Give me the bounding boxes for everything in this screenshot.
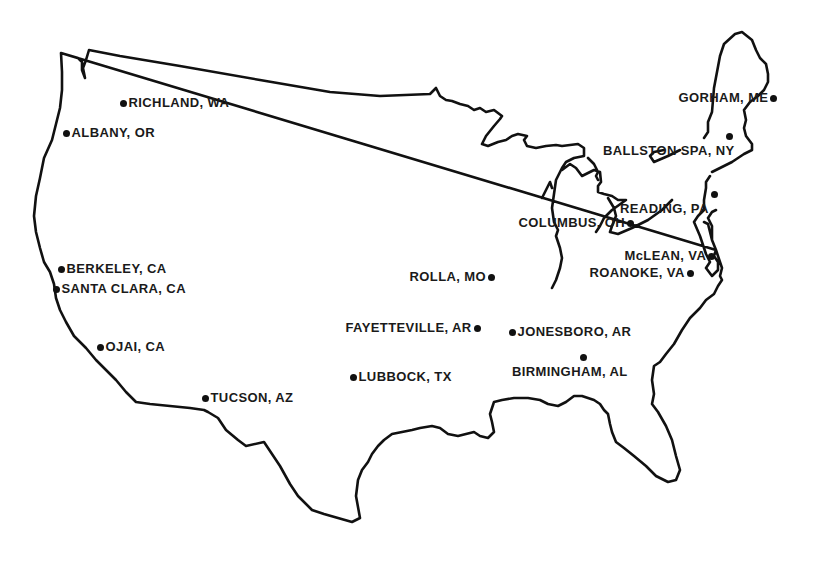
city-marker-columbus-oh: COLUMBUS, OH xyxy=(519,215,635,231)
city-label: TUCSON, AZ xyxy=(211,390,294,406)
location-dot-icon xyxy=(509,329,516,336)
location-dot-icon xyxy=(474,325,481,332)
location-dot-icon xyxy=(687,270,694,277)
city-marker-richland-wa: RICHLAND, WA xyxy=(120,95,230,111)
city-label: OJAI, CA xyxy=(106,339,166,355)
location-dot-icon xyxy=(97,344,104,351)
city-marker-rolla-mo: ROLLA, MO xyxy=(410,269,496,285)
city-label: GORHAM, ME xyxy=(679,90,769,106)
location-dot-icon xyxy=(711,191,718,198)
city-marker-fayetteville-ar: FAYETTEVILLE, AR xyxy=(346,320,481,336)
city-label: ROLLA, MO xyxy=(410,269,487,285)
city-marker-albany-or: ALBANY, OR xyxy=(63,125,155,141)
city-marker-mclean-va: McLEAN, VA xyxy=(625,248,716,264)
city-label-ballston-spa-ny: BALLSTON SPA, NY xyxy=(603,143,735,159)
city-marker-berkeley-ca: BERKELEY, CA xyxy=(58,261,167,277)
city-label: ALBANY, OR xyxy=(72,125,155,141)
city-label: ROANOKE, VA xyxy=(590,265,685,281)
location-dot-icon xyxy=(58,266,65,273)
city-label: BERKELEY, CA xyxy=(67,261,167,277)
location-dot-icon xyxy=(770,95,777,102)
city-marker-santa-clara-ca: SANTA CLARA, CA xyxy=(53,281,186,297)
location-dot-icon xyxy=(726,133,733,140)
location-dot-icon xyxy=(53,286,60,293)
location-dot-icon xyxy=(350,374,357,381)
city-marker-gorham-me: GORHAM, ME xyxy=(679,90,778,106)
city-label: McLEAN, VA xyxy=(625,248,707,264)
us-map: RICHLAND, WAALBANY, ORGORHAM, MEBALLSTON… xyxy=(0,0,829,568)
city-marker-lubbock-tx: LUBBOCK, TX xyxy=(350,369,452,385)
city-marker-ojai-ca: OJAI, CA xyxy=(97,339,166,355)
location-dot-icon xyxy=(708,253,715,260)
city-marker-tucson-az: TUCSON, AZ xyxy=(202,390,294,406)
city-label: JONESBORO, AR xyxy=(518,324,632,340)
location-dot-icon xyxy=(580,354,587,361)
city-label: RICHLAND, WA xyxy=(129,95,230,111)
city-label: LUBBOCK, TX xyxy=(359,369,452,385)
city-label: COLUMBUS, OH xyxy=(519,215,626,231)
city-marker-roanoke-va: ROANOKE, VA xyxy=(590,265,694,281)
location-dot-icon xyxy=(627,220,634,227)
city-label-birmingham-al: BIRMINGHAM, AL xyxy=(512,364,628,380)
location-dot-icon xyxy=(120,100,127,107)
city-label: FAYETTEVILLE, AR xyxy=(346,320,472,336)
location-dot-icon xyxy=(63,130,70,137)
city-marker-jonesboro-ar: JONESBORO, AR xyxy=(509,324,632,340)
city-label: SANTA CLARA, CA xyxy=(62,281,186,297)
location-dot-icon xyxy=(202,395,209,402)
location-dot-icon xyxy=(488,274,495,281)
